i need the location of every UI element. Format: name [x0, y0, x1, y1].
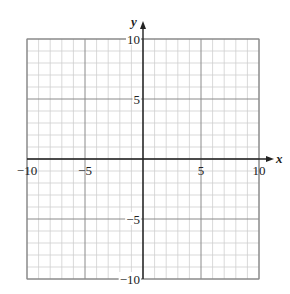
x-axis-label: x	[275, 151, 283, 166]
y-tick-label: −10	[120, 272, 140, 287]
x-tick-label: 10	[253, 163, 266, 178]
y-axis-label: y	[129, 14, 137, 29]
x-tick-label: −10	[17, 163, 37, 178]
axes	[27, 21, 274, 279]
x-axis-arrow-icon	[266, 156, 274, 162]
y-tick-label: −5	[126, 212, 140, 227]
y-tick-label: 5	[134, 92, 141, 107]
coordinate-plane: −10−5510105−5−10 x y	[0, 0, 290, 294]
y-tick-label: 10	[127, 32, 140, 47]
x-tick-label: −5	[78, 163, 92, 178]
y-axis-arrow-icon	[140, 21, 146, 29]
x-tick-label: 5	[198, 163, 205, 178]
